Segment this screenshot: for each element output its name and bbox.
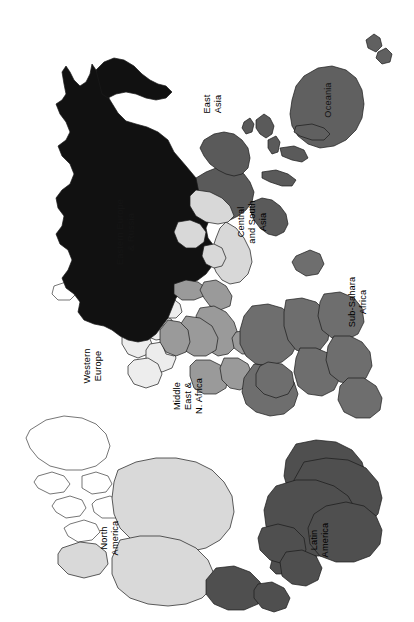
region-label-text: America <box>110 520 120 555</box>
region-label-text: and South <box>247 200 257 243</box>
region-label-east-asia: EastAsia <box>202 94 223 113</box>
region-label-text: Europe <box>93 351 103 382</box>
region-label-text: Asia <box>258 212 268 231</box>
region-label-middle-east-north-africa: MiddleEast &N. Africa <box>172 377 204 414</box>
region-label-text: Latin <box>309 530 319 551</box>
region-label-text: Eastern Europe <box>115 199 125 265</box>
region-label-text: Sub-Sahara <box>347 276 357 327</box>
region-label-text: East <box>202 94 212 113</box>
region-label-text: Asia <box>213 94 223 113</box>
region-label-text: Central <box>236 207 246 238</box>
region-label-oceania: Oceania <box>323 82 333 118</box>
region-label-text: America <box>320 522 330 557</box>
region-label-text: Africa <box>358 289 368 314</box>
region-label-text: Oceania <box>323 82 333 118</box>
region-label-text: North <box>99 526 109 549</box>
region-label-text: Middle <box>172 382 182 410</box>
region-label-text: N. Africa <box>194 377 204 414</box>
map-svg: Eastern Europe& RussiaEastAsiaOceaniaCen… <box>0 0 414 622</box>
region-label-text: East & <box>183 382 193 410</box>
region-label-text: Western <box>82 348 92 383</box>
world-regions-map-figure: Eastern Europe& RussiaEastAsiaOceaniaCen… <box>0 0 414 622</box>
region-label-text: & Russia <box>126 212 136 251</box>
region-label-western-europe: WesternEurope <box>82 348 103 383</box>
